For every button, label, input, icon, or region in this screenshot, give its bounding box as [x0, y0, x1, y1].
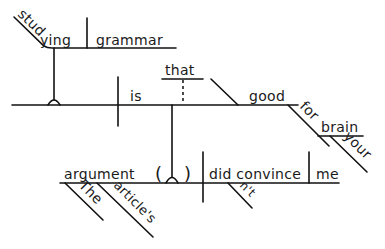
paren-close: ) [184, 163, 191, 184]
word-grammar: grammar [96, 32, 163, 48]
word-that: that [165, 62, 195, 78]
word-did-convince: did convince [209, 166, 301, 182]
clause-pedestal [166, 178, 178, 184]
main-clause: is that good for brain your [12, 62, 375, 183]
word-good: good [249, 88, 285, 104]
paren-open: ( [155, 163, 162, 184]
sentence-diagram: stud studying ying grammar is that good … [0, 0, 385, 249]
word-your: your [341, 128, 375, 162]
word-studying-b: ying [40, 32, 71, 48]
subordinate-clause: argument ( ) did convince me The article… [60, 152, 339, 237]
word-me: me [316, 166, 339, 182]
word-is: is [130, 88, 142, 104]
gerund-phrase: stud studying ying grammar [14, 6, 176, 105]
complement-slant [211, 79, 238, 105]
word-for: for [297, 98, 323, 124]
